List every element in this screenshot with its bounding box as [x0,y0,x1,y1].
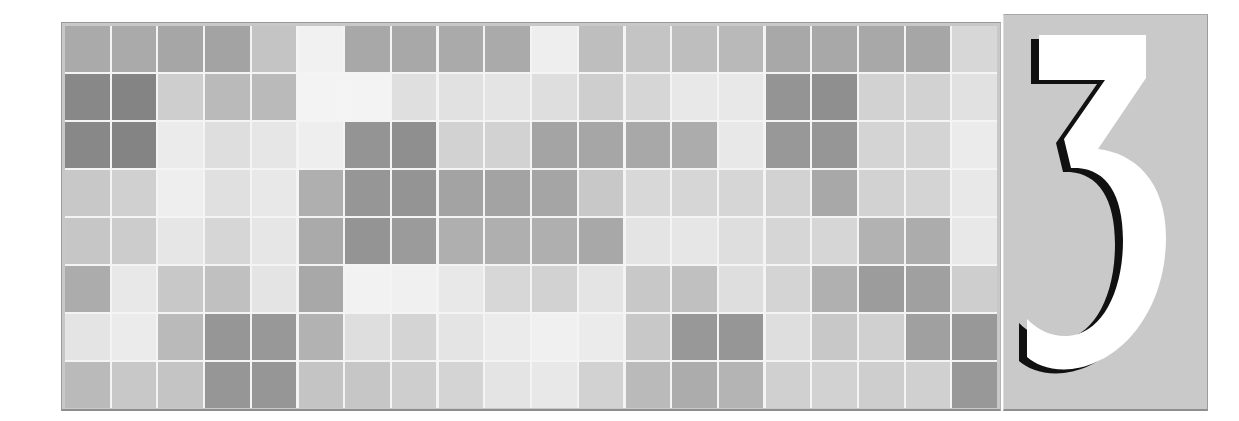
mosaic-swatch [205,74,250,120]
numeral-panel: 3 [1003,14,1208,411]
mosaic-swatch [719,170,764,216]
mosaic-swatch [345,362,390,408]
mosaic-swatch [906,74,951,120]
mosaic-swatch [439,26,484,72]
mosaic-swatch [65,74,110,120]
mosaic-swatch [719,266,764,312]
mosaic-swatch [626,74,671,120]
mosaic-swatch [672,362,717,408]
mosaic-swatch [859,362,904,408]
mosaic-swatch [719,218,764,264]
mosaic-swatch [112,314,157,360]
mosaic-swatch [65,26,110,72]
mosaic-swatch [532,362,577,408]
mosaic-swatch [672,170,717,216]
mosaic-swatch [65,266,110,312]
mosaic-swatch [532,218,577,264]
mosaic-swatch [719,314,764,360]
mosaic-swatch [906,26,951,72]
mosaic-swatch [439,362,484,408]
mosaic-swatch [112,74,157,120]
mosaic-swatch [485,74,530,120]
mosaic-swatch [485,122,530,168]
mosaic-swatch [719,74,764,120]
mosaic-swatch [766,218,811,264]
mosaic-swatch [112,266,157,312]
mosaic-swatch [532,26,577,72]
mosaic-swatch [859,218,904,264]
mosaic-swatch [532,74,577,120]
mosaic-swatch [392,26,437,72]
mosaic-swatch [532,314,577,360]
mosaic-panel [61,22,1001,411]
mosaic-swatch [65,218,110,264]
mosaic-swatch [812,218,857,264]
mosaic-swatch [626,122,671,168]
mosaic-swatch [766,122,811,168]
mosaic-swatch [952,314,997,360]
mosaic-swatch [345,74,390,120]
mosaic-swatch [812,170,857,216]
chapter-divider-page: 3 [0,0,1239,421]
mosaic-swatch [485,170,530,216]
mosaic-swatch [299,122,344,168]
mosaic-swatch [766,170,811,216]
mosaic-swatch [112,362,157,408]
mosaic-swatch [345,266,390,312]
mosaic-swatch [952,266,997,312]
mosaic-swatch [626,362,671,408]
mosaic-swatch [952,218,997,264]
mosaic-swatch [719,26,764,72]
mosaic-swatch [485,218,530,264]
mosaic-swatch [65,122,110,168]
mosaic-swatch [299,314,344,360]
mosaic-swatch [812,26,857,72]
mosaic-swatch [392,362,437,408]
mosaic-swatch [952,122,997,168]
mosaic-swatch [112,218,157,264]
mosaic-swatch [906,266,951,312]
mosaic-swatch [766,74,811,120]
mosaic-swatch [812,266,857,312]
mosaic-swatch [906,122,951,168]
mosaic-swatch [579,314,624,360]
mosaic-swatch [158,218,203,264]
mosaic-swatch [439,314,484,360]
mosaic-swatch [439,266,484,312]
mosaic-swatch [252,218,297,264]
mosaic-swatch [626,26,671,72]
mosaic-swatch [952,362,997,408]
mosaic-swatch [112,170,157,216]
mosaic-swatch [812,74,857,120]
mosaic-swatch [205,362,250,408]
mosaic-swatch [205,314,250,360]
mosaic-swatch [205,170,250,216]
mosaic-swatch [392,74,437,120]
mosaic-swatch [952,170,997,216]
mosaic-swatch [299,266,344,312]
mosaic-swatch [392,218,437,264]
mosaic-swatch [626,266,671,312]
mosaic-swatch [579,218,624,264]
mosaic-swatch [439,74,484,120]
mosaic-swatch [252,362,297,408]
mosaic-swatch [205,266,250,312]
mosaic-swatch [65,362,110,408]
mosaic-swatch [299,362,344,408]
mosaic-swatch [158,266,203,312]
mosaic-swatch [766,26,811,72]
mosaic-swatch [766,266,811,312]
mosaic-swatch [485,266,530,312]
mosaic-swatch [672,26,717,72]
mosaic-swatch [392,266,437,312]
mosaic-swatch [672,314,717,360]
mosaic-swatch [579,362,624,408]
mosaic-swatch [252,266,297,312]
mosaic-swatch [766,314,811,360]
mosaic-swatch [205,26,250,72]
mosaic-swatch [812,362,857,408]
mosaic-swatch [532,170,577,216]
mosaic-swatch [952,26,997,72]
mosaic-swatch [672,266,717,312]
mosaic-swatch [485,314,530,360]
